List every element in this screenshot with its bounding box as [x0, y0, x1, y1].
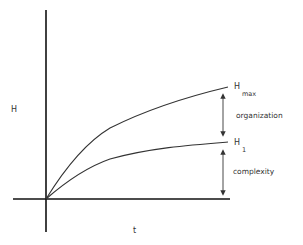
h1-curve	[46, 142, 228, 199]
hmax-curve	[46, 87, 228, 199]
complexity-label: complexity	[233, 167, 275, 176]
organization-label: organization	[236, 111, 283, 120]
x-axis-label: t	[133, 226, 136, 235]
hmax-label-main: H	[234, 82, 240, 91]
h1-label-main: H	[234, 138, 240, 147]
y-axis-label: H	[11, 105, 17, 114]
entropy-diagram: H t H max H 1 organization complexity	[0, 0, 303, 245]
h1-label-sub: 1	[242, 146, 246, 154]
hmax-label-sub: max	[242, 90, 256, 98]
